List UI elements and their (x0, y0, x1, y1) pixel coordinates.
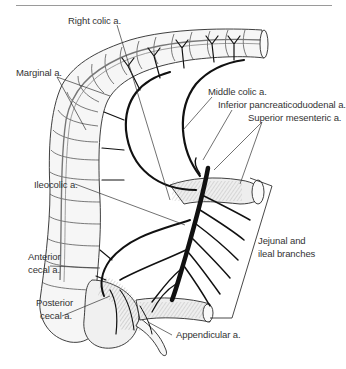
label-marginal-artery: Marginal a. (16, 67, 62, 79)
label-posterior-cecal-line1: Posterior (36, 297, 73, 309)
label-ileocolic-artery: Ileocolic a. (34, 179, 78, 191)
label-inferior-pancreaticoduodenal-artery: Inferior pancreaticoduodenal a. (218, 99, 346, 111)
label-right-colic-artery: Right colic a. (68, 15, 121, 27)
label-superior-mesenteric-artery: Superior mesenteric a. (248, 112, 341, 124)
label-jejunal-ileal-line1: Jejunal and (258, 235, 306, 247)
label-appendicular-artery: Appendicular a. (176, 329, 241, 341)
label-jejunal-ileal-line2: ileal branches (258, 248, 315, 260)
label-anterior-cecal-line2: cecal a. (28, 264, 60, 276)
label-posterior-cecal-line2: cecal a. (40, 310, 72, 322)
label-anterior-cecal-line1: Anterior (28, 251, 60, 263)
label-middle-colic-artery: Middle colic a. (208, 86, 267, 98)
